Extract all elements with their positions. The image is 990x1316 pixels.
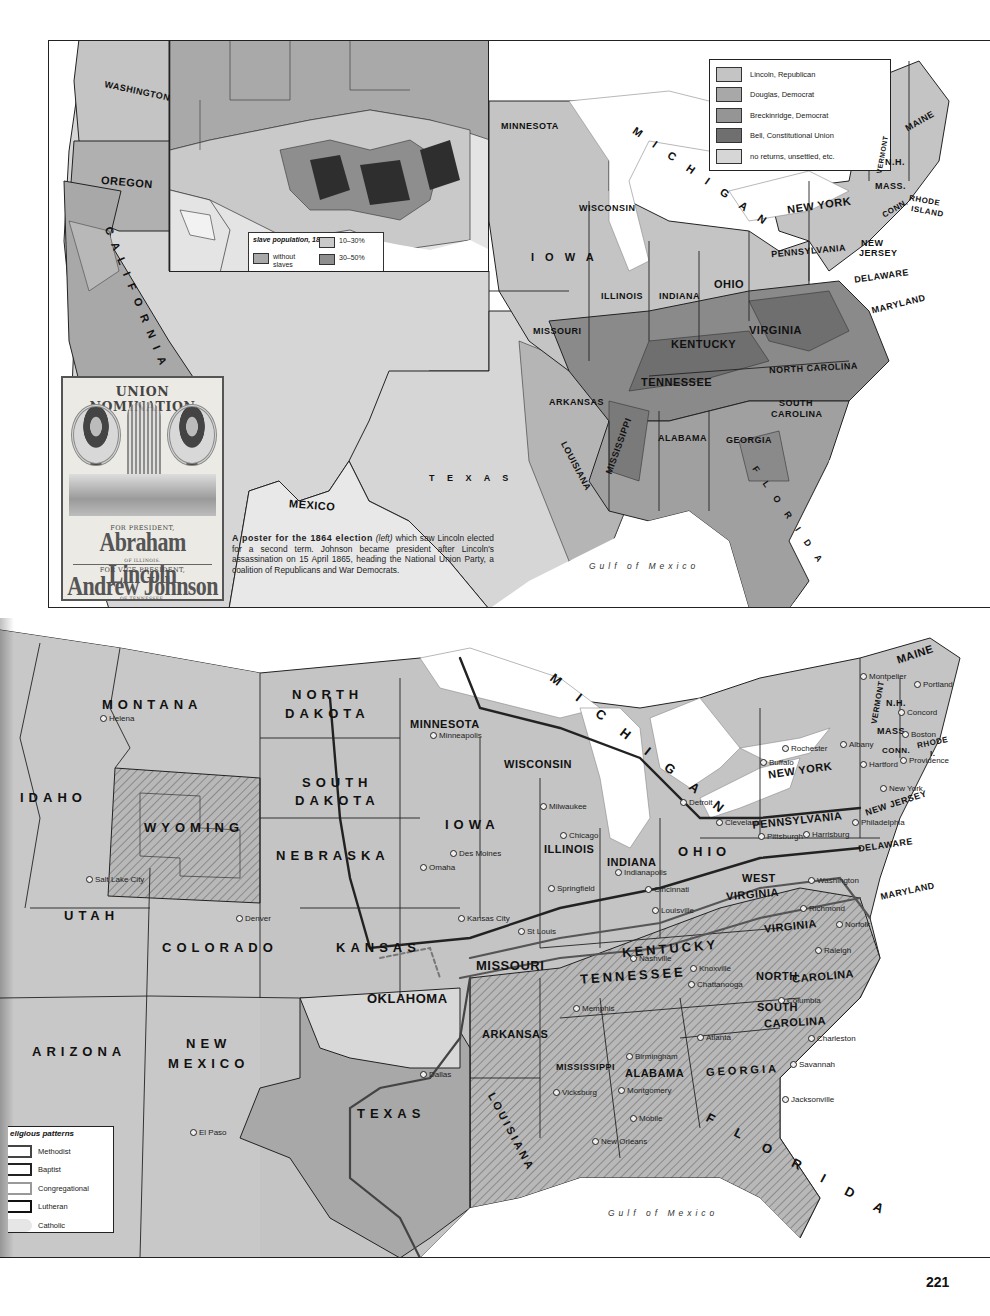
legend-label: 50% and over bbox=[339, 271, 375, 272]
city-montgomery: Montgomery bbox=[618, 1086, 671, 1095]
state-label-arkansas: ARKANSAS bbox=[549, 397, 604, 407]
state-label-idaho: IDAHO bbox=[20, 790, 87, 805]
state-label-ohio: OHIO bbox=[678, 844, 731, 859]
city-norfolk: Norfolk bbox=[836, 920, 870, 929]
legend-swatch bbox=[716, 87, 742, 102]
state-label-wisconsin: WISCONSIN bbox=[579, 203, 636, 213]
city-philadelphia: Philadelphia bbox=[852, 818, 905, 827]
legend-label: Catholic bbox=[38, 1221, 65, 1230]
state-label-nh: N.H. bbox=[886, 698, 906, 708]
religion-map-basemap bbox=[0, 618, 990, 1258]
legend-label: without slaves bbox=[273, 253, 307, 268]
johnson-portrait bbox=[167, 404, 217, 466]
state-label-tennessee: TENNESSEE bbox=[641, 376, 712, 388]
state-label-arkansas: ARKANSAS bbox=[482, 1028, 548, 1040]
slave-legend-item: under 10% bbox=[253, 271, 307, 272]
city-omaha: Omaha bbox=[420, 863, 455, 872]
legend-item-methodist: Methodist bbox=[8, 1142, 113, 1161]
state-label-iowa: I O W A bbox=[531, 251, 598, 263]
legend-label: Congregational bbox=[38, 1184, 89, 1193]
state-label-mississippi: MISSISSIPPI bbox=[556, 1062, 615, 1072]
state-label-conn: CONN. bbox=[882, 746, 910, 755]
city-memphis: Memphis bbox=[573, 1004, 614, 1013]
slave-population-legend: slave population, 1850 without slaves un… bbox=[248, 232, 384, 272]
legend-item-bell: Bell, Constitutional Union bbox=[716, 126, 884, 147]
city-jacksonville: Jacksonville bbox=[782, 1095, 834, 1104]
lincoln-portrait bbox=[71, 404, 121, 466]
legend-swatch bbox=[716, 108, 742, 123]
state-label-kentucky: KENTUCKY bbox=[671, 338, 736, 350]
legend-swatch bbox=[253, 271, 269, 272]
state-label-nh: N.H. bbox=[885, 157, 905, 167]
legend-swatch bbox=[319, 271, 335, 272]
city-el-paso: El Paso bbox=[190, 1128, 227, 1137]
state-label-missouri: MISSOURI bbox=[476, 958, 544, 973]
city-knoxville: Knoxville bbox=[690, 964, 731, 973]
legend-item-lincoln: Lincoln, Republican bbox=[716, 64, 884, 85]
religious-patterns-map: MONTANA IDAHO WYOMING UTAH COLORADO ARIZ… bbox=[0, 618, 990, 1258]
state-label-south-carolina-2: CAROLINA bbox=[771, 409, 823, 419]
legend-label: Lutheran bbox=[38, 1202, 68, 1211]
legend-swatch bbox=[8, 1145, 32, 1158]
state-label-alabama: ALABAMA bbox=[625, 1067, 684, 1079]
city-milwaukee: Milwaukee bbox=[540, 802, 587, 811]
city-boston: Boston bbox=[902, 730, 936, 739]
city-nashville: Nashville bbox=[630, 954, 671, 963]
city-new-york: New York bbox=[880, 784, 923, 793]
legend-swatch bbox=[8, 1200, 32, 1213]
state-label-kansas: KANSAS bbox=[336, 940, 421, 955]
poster-caption: A poster for the 1864 election (left) wh… bbox=[232, 533, 494, 575]
legend-item-catholic: Catholic bbox=[8, 1216, 113, 1235]
legend-swatch bbox=[319, 254, 335, 265]
city-montpelier: Montpelier bbox=[860, 672, 906, 681]
city-harrisburg: Harrisburg bbox=[803, 830, 849, 839]
city-pittsburgh: Pittsburgh bbox=[758, 832, 803, 841]
state-label-new-mexico-2: MEXICO bbox=[168, 1056, 249, 1071]
city-portland: Portland bbox=[914, 680, 953, 689]
slave-legend-item: 10–30% bbox=[319, 237, 365, 248]
city-salt-lake-city: Salt Lake City bbox=[86, 875, 144, 884]
slave-population-inset-map: slave population, 1850 without slaves un… bbox=[169, 40, 489, 272]
state-label-arizona: ARIZONA bbox=[32, 1044, 126, 1059]
poster-divider bbox=[73, 564, 212, 565]
slave-legend-item: without slaves bbox=[253, 253, 307, 268]
state-label-south-carolina-1: SOUTH bbox=[779, 398, 813, 408]
city-columbia: Columbia bbox=[778, 996, 821, 1005]
legend-item-no-returns: no returns, unsettled, etc. bbox=[716, 146, 884, 167]
city-chicago: Chicago bbox=[560, 831, 598, 840]
city-louisville: Louisville bbox=[652, 906, 694, 915]
state-label-new-mexico-1: NEW bbox=[186, 1036, 231, 1051]
legend-item-congregational: Congregational bbox=[8, 1179, 113, 1198]
state-label-georgia: GEORGIA bbox=[726, 435, 772, 445]
state-label-iowa: IOWA bbox=[445, 817, 500, 832]
state-label-alabama: ALABAMA bbox=[658, 433, 707, 443]
city-helena: Helena bbox=[100, 714, 134, 723]
city-vicksburg: Vicksburg bbox=[553, 1088, 597, 1097]
legend-swatch bbox=[8, 1163, 32, 1176]
state-label-minnesota: MINNESOTA bbox=[410, 718, 480, 730]
state-label-illinois: ILLINOIS bbox=[544, 843, 594, 855]
poster-president-state: OF ILLINOIS. bbox=[63, 558, 222, 563]
religion-legend-title: eligious patterns bbox=[8, 1129, 113, 1142]
state-label-texas: T E X A S bbox=[429, 473, 513, 483]
poster-landscape bbox=[69, 474, 216, 516]
state-label-north-dakota-2: DAKOTA bbox=[285, 706, 370, 721]
legend-item-lutheran: Lutheran bbox=[8, 1198, 113, 1217]
city-mobile: Mobile bbox=[630, 1114, 663, 1123]
legend-label: Baptist bbox=[38, 1165, 61, 1174]
state-label-oklahoma: OKLAHOMA bbox=[367, 991, 448, 1006]
legend-label: Lincoln, Republican bbox=[750, 70, 815, 79]
state-label-west-virginia-1: WEST bbox=[742, 872, 776, 884]
state-label-colorado: COLORADO bbox=[162, 940, 278, 955]
city-new-orleans: New Orleans bbox=[592, 1137, 647, 1146]
state-label-nebraska: NEBRASKA bbox=[276, 848, 390, 863]
legend-label: Bell, Constitutional Union bbox=[750, 131, 834, 140]
caption-lead: A poster for the 1864 election bbox=[232, 533, 373, 543]
state-label-utah: UTAH bbox=[64, 908, 119, 923]
state-label-indiana: INDIANA bbox=[607, 856, 656, 868]
city-springfield: Springfield bbox=[548, 884, 595, 893]
city-denver: Denver bbox=[236, 914, 271, 923]
city-cincinnati: Cincinnati bbox=[645, 885, 689, 894]
state-label-virginia: VIRGINIA bbox=[749, 324, 802, 336]
city-washington: Washington bbox=[808, 876, 859, 885]
